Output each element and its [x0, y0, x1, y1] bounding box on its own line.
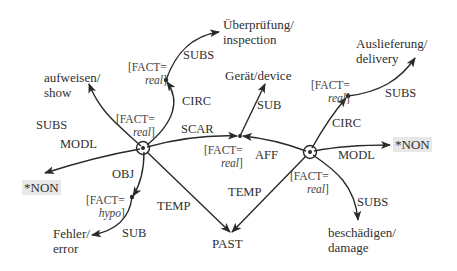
scar-aff-junction-dot: [238, 134, 242, 138]
edge-label-subs-right-bottom: SUBS: [357, 195, 388, 209]
edge-obj: [133, 152, 144, 196]
fact-circ-left: [FACT= real]: [128, 61, 167, 87]
edge-label-modl-right: MODL: [338, 148, 375, 162]
edge-label-circ-right: CIRC: [332, 116, 361, 130]
edge-label-modl-left: MODL: [60, 137, 97, 151]
edge-label-temp-right: TEMP: [228, 185, 261, 199]
node-non-left: *NON: [22, 180, 61, 195]
fact-key: [FACT=: [290, 170, 329, 183]
fact-key: [FACT=: [128, 61, 167, 74]
node-aufweisen: aufweisen/ show: [44, 70, 100, 100]
edge-label-subs-left: SUBS: [36, 118, 67, 132]
fact-close: ]: [239, 157, 243, 169]
node-fehler-de: Fehler/: [53, 226, 90, 241]
edge-label-obj: OBJ: [112, 167, 134, 181]
node-ueberpruefung: Überprüfung/ inspection: [223, 17, 294, 47]
fact-obj: [FACT= hypo]: [86, 194, 125, 220]
node-aufweisen-en: show: [44, 85, 100, 100]
node-auslieferung-en: delivery: [356, 51, 427, 66]
obj-dot: [130, 195, 134, 199]
fact-close: ]: [325, 183, 329, 195]
fact-value: real: [307, 183, 325, 195]
fact-close: ]: [163, 74, 167, 86]
node-auslieferung-de: Auslieferung/: [356, 36, 427, 51]
left-node: [137, 142, 150, 155]
edge-label-subs-circ-left: SUBS: [183, 48, 214, 62]
edge-label-subs-right-top: SUBS: [385, 86, 416, 100]
fact-scar-aff: [FACT= real]: [204, 144, 243, 170]
fact-key: [FACT=: [204, 144, 243, 157]
fact-value: hypo: [99, 207, 121, 219]
edge-label-sub-geraet: SUB: [257, 98, 281, 112]
node-beschaedigen: beschädigen/ damage: [328, 225, 396, 255]
node-ueberpruefung-en: inspection: [223, 32, 294, 47]
fact-value: real: [221, 157, 239, 169]
edge-label-temp-left: TEMP: [157, 199, 190, 213]
node-geraet: Gerät/device: [225, 68, 291, 83]
fact-close: ]: [121, 207, 125, 219]
node-aufweisen-de: aufweisen/: [44, 70, 100, 85]
node-beschaedigen-en: damage: [328, 240, 396, 255]
node-fehler-en: error: [53, 241, 90, 256]
fact-circ-right: [FACT= real]: [311, 79, 350, 105]
node-beschaedigen-de: beschädigen/: [328, 225, 396, 240]
fact-value: real: [133, 126, 151, 138]
fact-left-node: [FACT= real]: [116, 113, 155, 139]
edge-label-sub-fehler: SUB: [122, 226, 146, 240]
edge-label-scar: SCAR: [181, 122, 214, 136]
node-fehler: Fehler/ error: [53, 226, 90, 256]
fact-right-node: [FACT= real]: [290, 170, 329, 196]
edge-label-aff: AFF: [255, 148, 278, 162]
fact-key: [FACT=: [86, 194, 125, 207]
node-non-right: *NON: [393, 137, 432, 152]
fact-value: real: [145, 74, 163, 86]
fact-key: [FACT=: [116, 113, 155, 126]
node-ueberpruefung-de: Überprüfung/: [223, 17, 294, 32]
node-past: PAST: [212, 236, 243, 251]
right-node: [304, 146, 317, 159]
fact-close: ]: [151, 126, 155, 138]
node-auslieferung: Auslieferung/ delivery: [356, 36, 427, 66]
fact-close: ]: [346, 92, 350, 104]
fact-value: real: [328, 92, 346, 104]
edge-label-circ-left: CIRC: [182, 94, 211, 108]
fact-key: [FACT=: [311, 79, 350, 92]
